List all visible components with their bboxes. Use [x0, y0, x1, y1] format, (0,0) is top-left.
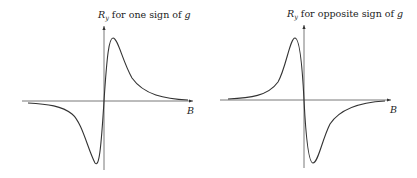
right-x-label: B — [389, 104, 397, 115]
right-curve — [228, 38, 385, 163]
left-panel: Ry for one sign of g B — [22, 9, 194, 170]
right-panel: Ry for opposite sign of g B — [220, 8, 403, 168]
diagram-canvas: Ry for one sign of g B Ry for opposite s… — [0, 0, 417, 178]
left-title: Ry for one sign of g — [97, 9, 191, 22]
left-x-label: B — [186, 105, 194, 116]
right-title: Ry for opposite sign of g — [286, 8, 403, 21]
